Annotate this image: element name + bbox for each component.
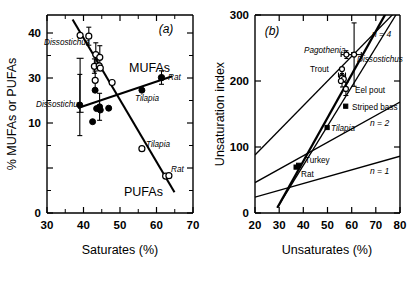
panel-b-xtick-70: 70 <box>369 219 382 231</box>
data-point <box>325 125 329 129</box>
panel-a-ytick-30: 30 <box>28 72 41 84</box>
panel-a-ytick-0: 0 <box>35 207 41 219</box>
data-point <box>97 107 103 113</box>
panel-b-isoline-n4-label: n = 4 <box>372 29 391 39</box>
panel-b-label-trout: Trout <box>310 65 330 74</box>
panel-a: 0 10 30 40 30 40 50 60 70 Saturates (%) … <box>5 15 199 257</box>
panel-a-x-ticks-top <box>47 15 175 21</box>
panel-b-label-dissostichus: Dissostichus <box>357 55 403 64</box>
data-point <box>139 87 145 93</box>
panel-b-isoline-n2-label: n = 2 <box>370 118 389 128</box>
panel-a-mufa-series-label: MUFAs <box>129 61 170 75</box>
scientific-figure: 0 10 30 40 30 40 50 60 70 Saturates (%) … <box>0 0 418 284</box>
data-point <box>338 79 343 84</box>
panel-a-label-rat-pufa: Rat <box>171 165 184 174</box>
panel-b-ytick-200: 200 <box>230 75 249 87</box>
panel-a-xlabel: Saturates (%) <box>82 243 158 257</box>
panel-a-label-dissostichus-pufa: Dissostichus <box>44 38 90 47</box>
panel-b-xtick-40: 40 <box>297 219 310 231</box>
panel-a-label-rat-mufa: Rat <box>168 73 181 82</box>
panel-b-label-pagothenia: Pagothenia <box>304 46 346 55</box>
panel-a-label-dissostichus-mufa: Dissostichus <box>36 100 82 109</box>
panel-a-pufa-series-label: PUFAs <box>124 185 163 199</box>
data-point <box>294 165 298 169</box>
panel-b-xtick-20: 20 <box>249 219 262 231</box>
panel-a-xtick-60: 60 <box>150 219 163 231</box>
figure-root: 0 10 30 40 30 40 50 60 70 Saturates (%) … <box>0 0 418 284</box>
data-point <box>97 65 103 71</box>
panel-b-ytick-300: 300 <box>230 9 249 21</box>
data-point <box>92 87 98 93</box>
panel-b-ylabel: Unsaturation index <box>213 61 227 166</box>
panel-a-xtick-50: 50 <box>114 219 127 231</box>
panel-b-ytick-100: 100 <box>230 141 249 153</box>
panel-a-y-ticks <box>47 33 53 213</box>
panel-b: 0 100 200 300 20 30 40 50 60 70 80 Unsat… <box>213 0 410 257</box>
panel-a-xtick-40: 40 <box>77 219 90 231</box>
data-point <box>106 105 112 111</box>
panel-a-label-tilapia-pufa: Tilapia <box>146 140 170 149</box>
panel-a-label-tilapia-mufa: Tilapia <box>135 94 159 103</box>
data-point <box>92 77 98 83</box>
panel-a-ytick-10: 10 <box>28 117 41 129</box>
data-point <box>97 54 103 60</box>
data-point <box>352 52 357 57</box>
panel-b-xtick-60: 60 <box>345 219 358 231</box>
data-point <box>343 86 348 91</box>
panel-b-letter: (b) <box>265 24 280 38</box>
panel-b-label-rat: Rat <box>301 170 314 179</box>
panel-b-xtick-30: 30 <box>273 219 286 231</box>
panel-a-x-ticks <box>47 207 193 213</box>
panel-b-label-striped-bass: Striped bass <box>352 103 398 112</box>
panel-b-label-tilapia: Tilapia <box>331 124 355 133</box>
panel-b-label-turkey: Turkey <box>305 156 331 165</box>
panel-b-xlabel: Unsaturates (%) <box>282 243 372 257</box>
panel-b-label-eel-pout: Eel pout <box>355 86 386 95</box>
data-point <box>139 146 145 152</box>
panel-a-xtick-70: 70 <box>187 219 200 231</box>
panel-b-ytick-0: 0 <box>243 207 249 219</box>
panel-b-xtick-50: 50 <box>321 219 334 231</box>
panel-b-xtick-80: 80 <box>394 219 407 231</box>
panel-a-ytick-40: 40 <box>28 27 41 39</box>
data-point <box>340 67 345 72</box>
panel-a-y-ticks-right <box>187 33 193 213</box>
data-point <box>158 74 164 80</box>
panel-a-ylabel: % MUFAs or PUFAs <box>5 58 19 171</box>
panel-a-xtick-30: 30 <box>41 219 54 231</box>
data-point <box>344 104 348 108</box>
panel-a-letter: (a) <box>159 22 174 36</box>
panel-b-isoline-n1-label: n = 1 <box>370 166 389 176</box>
data-point <box>90 119 96 125</box>
data-point <box>109 80 115 86</box>
